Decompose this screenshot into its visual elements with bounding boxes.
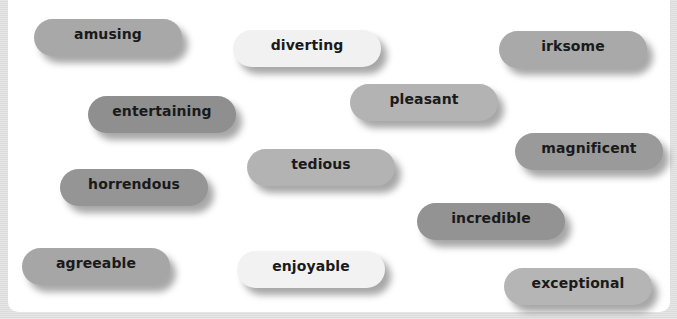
word-card-diverting[interactable]: diverting: [233, 30, 381, 67]
word-label: diverting: [271, 37, 344, 53]
word-card-enjoyable[interactable]: enjoyable: [237, 251, 385, 288]
word-card-magnificent[interactable]: magnificent: [515, 133, 663, 170]
word-card-tedious[interactable]: tedious: [247, 149, 395, 186]
word-card-irksome[interactable]: irksome: [499, 31, 647, 68]
word-label: incredible: [451, 210, 531, 226]
word-card-agreeable[interactable]: agreeable: [22, 248, 170, 285]
word-label: horrendous: [88, 176, 180, 192]
word-label: entertaining: [112, 103, 211, 119]
word-label: irksome: [541, 38, 605, 54]
word-label: pleasant: [389, 91, 458, 107]
word-card-exceptional[interactable]: exceptional: [504, 268, 652, 305]
word-label: amusing: [74, 26, 142, 42]
word-label: exceptional: [532, 275, 625, 291]
word-label: tedious: [291, 156, 351, 172]
word-card-incredible[interactable]: incredible: [417, 203, 565, 240]
word-label: enjoyable: [272, 258, 350, 274]
word-card-amusing[interactable]: amusing: [34, 19, 182, 56]
word-card-horrendous[interactable]: horrendous: [60, 169, 208, 206]
word-card-entertaining[interactable]: entertaining: [88, 96, 236, 133]
word-label: magnificent: [541, 140, 636, 156]
word-label: agreeable: [56, 255, 136, 271]
word-card-pleasant[interactable]: pleasant: [350, 84, 498, 121]
